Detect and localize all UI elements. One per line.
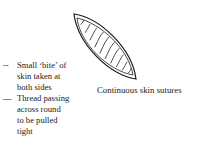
label-line: both sides (17, 82, 69, 93)
label-thread-passing: — Thread passing across round to be pull… (3, 93, 69, 137)
stitch (100, 37, 110, 54)
stitch (122, 62, 127, 71)
stitch (105, 42, 115, 59)
stitch (90, 28, 97, 40)
label-line: Thread passing (17, 93, 69, 104)
stitch (85, 24, 90, 33)
annotation-labels: -- Small ‘bite’ of skin taken at both si… (3, 60, 69, 137)
stitch (95, 32, 104, 47)
stitch (128, 69, 131, 73)
label-small-bite: -- Small ‘bite’ of skin taken at both si… (3, 60, 69, 93)
label-line: skin taken at (17, 71, 69, 82)
stitch (116, 55, 123, 67)
leader-marker: — (3, 93, 12, 104)
label-line: tight (17, 126, 69, 137)
leader-marker: -- (3, 60, 9, 71)
stitch (81, 20, 84, 24)
stitch (111, 48, 120, 63)
label-line: across round (17, 104, 69, 115)
figure-caption: Continuous skin sutures (97, 85, 182, 95)
label-line: Small ‘bite’ of (17, 60, 69, 71)
wound-lens-outline (74, 14, 136, 79)
label-line: to be pulled (17, 115, 69, 126)
